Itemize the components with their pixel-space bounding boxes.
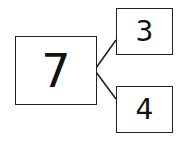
part-box-bottom: 4 xyxy=(116,86,173,133)
whole-box: 7 xyxy=(15,36,97,105)
connector-top xyxy=(96,40,116,68)
connector-bottom xyxy=(96,72,116,99)
part-value-bottom: 4 xyxy=(136,93,154,126)
part-box-top: 3 xyxy=(116,8,173,55)
part-value-top: 3 xyxy=(136,15,154,48)
whole-value: 7 xyxy=(41,44,70,98)
